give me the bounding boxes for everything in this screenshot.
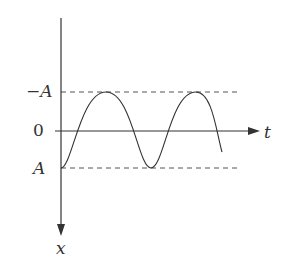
t-axis-label: t [264, 124, 271, 141]
oscillation-diagram: −A 0 A t x [0, 0, 282, 271]
neg-amplitude-label: −A [26, 83, 53, 100]
x-axis-arrow-icon [57, 224, 65, 236]
t-axis-arrow-icon [248, 127, 260, 135]
oscillation-curve [61, 92, 222, 168]
zero-label: 0 [33, 122, 44, 139]
pos-amplitude-label: A [33, 160, 45, 177]
x-axis-label: x [56, 240, 66, 257]
